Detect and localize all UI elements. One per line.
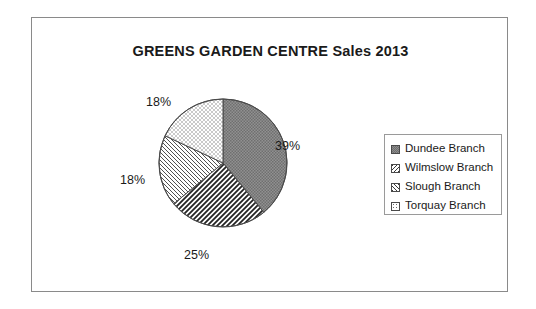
- legend-swatch-torquay: [391, 202, 400, 211]
- legend-label-slough: Slough Branch: [405, 181, 480, 193]
- pie-label-dundee: 39%: [275, 139, 300, 153]
- pie-svg: [149, 89, 297, 237]
- pie-label-torquay: 18%: [146, 95, 171, 109]
- legend-item-wilmslow: Wilmslow Branch: [391, 159, 501, 177]
- pie-chart: [149, 89, 297, 237]
- legend-swatch-wilmslow: [391, 164, 400, 173]
- legend-item-torquay: Torquay Branch: [391, 197, 501, 215]
- legend-label-torquay: Torquay Branch: [405, 200, 486, 212]
- chart-title: GREENS GARDEN CENTRE Sales 2013: [32, 43, 509, 59]
- legend-label-wilmslow: Wilmslow Branch: [405, 162, 493, 174]
- chart-canvas: GREENS GARDEN CENTRE Sales 2013: [0, 0, 536, 309]
- chart-frame: GREENS GARDEN CENTRE Sales 2013: [31, 17, 508, 292]
- pie-label-wilmslow: 18%: [120, 173, 145, 187]
- legend-item-slough: Slough Branch: [391, 178, 501, 196]
- legend-swatch-slough: [391, 183, 400, 192]
- legend-swatch-dundee: [391, 145, 400, 154]
- chart-legend: Dundee Branch Wilmslow Branch Slough Bra…: [384, 134, 502, 215]
- legend-item-dundee: Dundee Branch: [391, 140, 501, 158]
- pie-label-slough: 25%: [184, 248, 209, 262]
- legend-label-dundee: Dundee Branch: [405, 143, 485, 155]
